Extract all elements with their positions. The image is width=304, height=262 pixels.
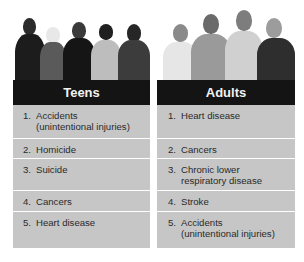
person-figure (91, 24, 121, 80)
list-item: 3. Chronic lower respiratory disease (157, 159, 295, 190)
list-item: 5. Accidents (unintentional injuries) (157, 212, 295, 248)
list-item: 3. Suicide (13, 159, 150, 190)
adults-panel: Adults 1. Heart disease 2. Cancers 3. Ch… (157, 0, 295, 248)
teens-header: Teens (13, 80, 150, 105)
adults-group-photo (157, 0, 295, 80)
person-figure (257, 18, 295, 80)
list-item: 4. Cancers (13, 191, 150, 211)
list-item: 5. Heart disease (13, 212, 150, 248)
teens-panel: Teens 1. Accidents (unintentional injuri… (13, 0, 150, 248)
adults-header: Adults (157, 80, 295, 105)
teens-group-photo (13, 0, 150, 80)
list-item: 1. Accidents (unintentional injuries) (13, 105, 150, 138)
person-figure (118, 24, 150, 80)
list-item: 2. Homicide (13, 139, 150, 158)
list-item: 1. Heart disease (157, 105, 295, 138)
list-item: 4. Stroke (157, 191, 295, 211)
list-item: 2. Cancers (157, 139, 295, 158)
